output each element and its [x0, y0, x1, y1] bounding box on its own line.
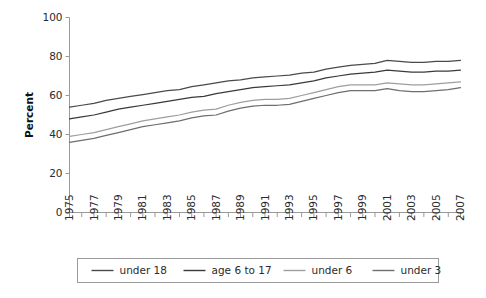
y-axis-tick-label: 80	[49, 50, 62, 62]
y-axis-tick-label: 0	[56, 206, 63, 218]
x-axis-tick-label: 1997	[332, 194, 344, 221]
x-axis-tick-label: 1983	[161, 194, 173, 221]
chart-svg: 020406080100 197519771979198119831985198…	[0, 0, 486, 298]
series-lines	[70, 60, 461, 142]
line-chart: 020406080100 197519771979198119831985198…	[0, 0, 486, 298]
x-axis: 1975197719791981198319851987198919911993…	[63, 194, 466, 221]
x-axis-tick-label: 1985	[185, 194, 197, 221]
legend-label-under-18: under 18	[120, 264, 167, 276]
y-axis-title: Percent	[23, 92, 35, 138]
x-axis-tick-label: 1987	[210, 194, 222, 221]
x-axis-tick-label: 2001	[381, 194, 393, 221]
x-axis-tick-label: 2003	[405, 194, 417, 221]
x-axis-tick-label: 1979	[112, 194, 124, 221]
x-axis-tick-label: 2007	[454, 194, 466, 221]
x-axis-tick-label: 1995	[307, 194, 319, 221]
x-axis-tick-label: 1991	[259, 194, 271, 221]
y-axis-tick-label: 60	[49, 89, 62, 101]
y-axis-tick-label: 20	[49, 167, 62, 179]
y-axis-tick-label: 100	[42, 11, 62, 23]
chart-legend: under 18age 6 to 17under 6under 3	[78, 259, 442, 283]
x-axis-tick-label: 1977	[88, 194, 100, 221]
legend-label-under-6: under 6	[312, 264, 353, 276]
legend-label-under-3: under 3	[401, 264, 442, 276]
series-line-under-6	[70, 82, 461, 137]
legend-label-age-6-to-17: age 6 to 17	[212, 264, 272, 276]
y-axis-tick-label: 40	[49, 128, 62, 140]
series-line-under-3	[70, 88, 461, 143]
x-axis-tick-label: 1981	[136, 194, 148, 221]
x-axis-tick-label: 1993	[283, 194, 295, 221]
x-axis-tick-label: 1999	[356, 194, 368, 221]
x-axis-tick-label: 2005	[430, 194, 442, 221]
x-axis-tick-label: 1989	[234, 194, 246, 221]
y-axis: 020406080100	[42, 11, 69, 218]
x-axis-tick-label: 1975	[63, 194, 75, 221]
